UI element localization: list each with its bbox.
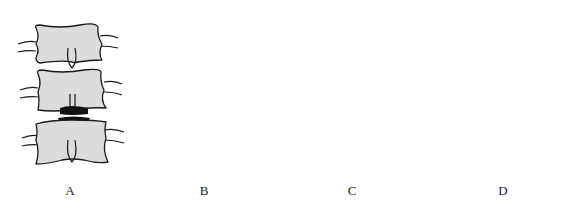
panel-a-figure xyxy=(18,24,124,164)
panel-label-b: B xyxy=(194,183,214,199)
panel-label-c: C xyxy=(342,183,362,199)
panel-label-a: A xyxy=(60,183,80,199)
spine-diagram xyxy=(0,0,561,212)
panel-label-d: D xyxy=(493,183,513,199)
